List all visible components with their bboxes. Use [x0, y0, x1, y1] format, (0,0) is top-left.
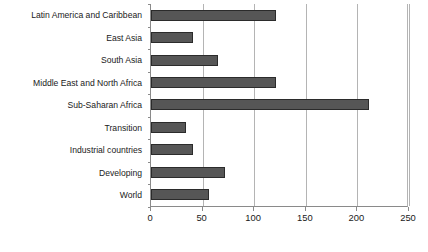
- bar-slot: [151, 139, 407, 161]
- bar-slot: [151, 49, 407, 71]
- value-axis-tick-label: 100: [245, 213, 261, 222]
- category-label-row: Developing: [0, 162, 146, 185]
- bar-slot: [151, 184, 407, 206]
- category-label-row: Latin America and Caribbean: [0, 4, 146, 27]
- category-label: Transition: [105, 124, 142, 133]
- value-axis-tick: [253, 207, 254, 211]
- bar-slot: [151, 161, 407, 183]
- value-axis: 050100150200250: [150, 207, 408, 235]
- category-label-row: Middle East and North Africa: [0, 72, 146, 95]
- bar-sub-saharan-africa: [151, 99, 369, 110]
- plot-area: [150, 4, 408, 207]
- value-axis-tick: [408, 207, 409, 211]
- category-axis: Latin America and Caribbean East Asia So…: [0, 4, 146, 207]
- category-label-row: Sub-Saharan Africa: [0, 94, 146, 117]
- category-label-row: World: [0, 185, 146, 208]
- category-label: South Asia: [101, 56, 142, 65]
- bar-latin-america-and-caribbean: [151, 10, 276, 21]
- value-axis-tick-label: 0: [147, 213, 152, 222]
- value-axis-tick-label: 150: [297, 213, 313, 222]
- category-label: Sub-Saharan Africa: [67, 101, 142, 110]
- category-label: World: [120, 191, 142, 200]
- gridline: [409, 4, 410, 206]
- bar-slot: [151, 4, 407, 26]
- value-axis-tick-label: 50: [196, 213, 206, 222]
- category-label-row: South Asia: [0, 49, 146, 72]
- value-axis-tick-label: 200: [349, 213, 365, 222]
- bar-transition: [151, 122, 186, 133]
- caption-strip: [0, 236, 428, 252]
- bar-east-asia: [151, 32, 193, 43]
- bar-south-asia: [151, 55, 218, 66]
- category-tick: [148, 207, 151, 208]
- bar-chart-figure: Latin America and Caribbean East Asia So…: [0, 0, 428, 252]
- bar-slot: [151, 94, 407, 116]
- category-label: Industrial countries: [70, 146, 142, 155]
- value-axis-tick: [202, 207, 203, 211]
- category-label-row: Industrial countries: [0, 139, 146, 162]
- bar-middle-east-and-north-africa: [151, 77, 276, 88]
- category-label: East Asia: [106, 34, 142, 43]
- bar-world: [151, 189, 209, 200]
- bars-layer: [151, 4, 407, 206]
- value-axis-tick: [356, 207, 357, 211]
- bar-developing: [151, 167, 225, 178]
- bar-industrial-countries: [151, 144, 193, 155]
- category-label: Middle East and North Africa: [33, 79, 142, 88]
- bar-slot: [151, 116, 407, 138]
- category-label-row: East Asia: [0, 27, 146, 50]
- category-label: Developing: [99, 169, 142, 178]
- value-axis-tick: [305, 207, 306, 211]
- bar-slot: [151, 71, 407, 93]
- bar-slot: [151, 26, 407, 48]
- category-label-row: Transition: [0, 117, 146, 140]
- value-axis-tick-label: 250: [400, 213, 416, 222]
- category-label: Latin America and Caribbean: [31, 11, 142, 20]
